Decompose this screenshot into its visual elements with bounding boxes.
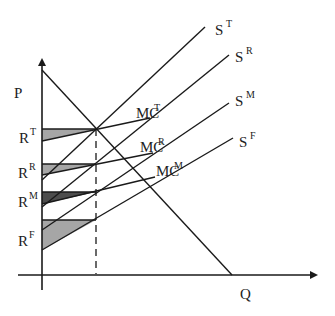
svg-text:M: M — [246, 89, 255, 100]
svg-text:S: S — [235, 93, 243, 109]
price-label-m: R M — [18, 190, 38, 210]
mc-label-t: MC T — [136, 102, 160, 121]
mc-curve-m — [42, 177, 155, 204]
mc-label-m: MC M — [156, 160, 183, 179]
svg-text:S: S — [239, 134, 247, 150]
supply-label-t: S T — [215, 18, 232, 38]
y-axis-label: P — [14, 85, 22, 101]
svg-text:M: M — [29, 190, 38, 201]
supply-label-r: S R — [235, 45, 253, 65]
svg-text:T: T — [154, 102, 160, 113]
svg-text:R: R — [246, 45, 253, 56]
svg-text:F: F — [29, 229, 35, 240]
svg-text:S: S — [215, 22, 223, 38]
supply-label-f: S F — [239, 130, 256, 150]
price-label-r: R R — [18, 161, 36, 181]
svg-text:T: T — [30, 126, 36, 137]
svg-text:F: F — [250, 130, 256, 141]
price-label-f: R F — [18, 229, 35, 249]
svg-text:R: R — [18, 194, 28, 210]
svg-text:M: M — [174, 160, 183, 171]
price-label-t: R T — [19, 126, 36, 146]
svg-text:T: T — [226, 18, 232, 29]
supply-label-m: S M — [235, 89, 255, 109]
svg-text:R: R — [29, 161, 36, 172]
demand-curve — [42, 70, 232, 275]
svg-text:R: R — [19, 130, 29, 146]
svg-text:S: S — [235, 49, 243, 65]
svg-text:R: R — [18, 165, 28, 181]
mc-label-r: MC R — [140, 136, 165, 155]
svg-text:R: R — [158, 136, 165, 147]
svg-text:R: R — [18, 233, 28, 249]
x-axis-label: Q — [240, 286, 251, 302]
supply-demand-diagram: P Q S T S R S M S F MC T MC R MC M R T R… — [0, 0, 335, 316]
